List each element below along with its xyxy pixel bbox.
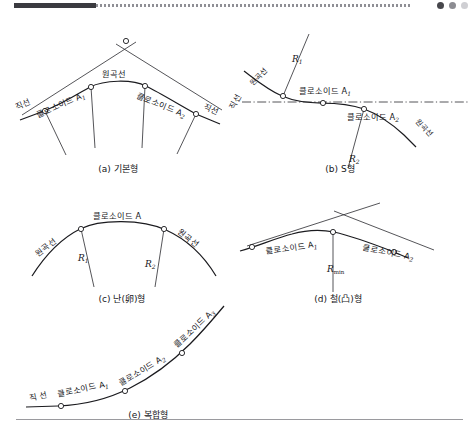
figure-d-label-clothoid-a1: 클로소이드 A1 [265, 239, 318, 257]
figure-b-label-straight-line-left: 직선 [227, 92, 243, 111]
figure-c-caption: (c) 난(卵)형 [99, 293, 146, 304]
page-bottom-rule [16, 419, 463, 420]
figure-b-node-cs [280, 93, 285, 98]
scan-bar-dot-dark [437, 2, 444, 9]
figure-e-node-cc1 [122, 388, 127, 393]
scan-bar-dot-light [461, 2, 468, 9]
figure-c-alignment-curve [32, 222, 216, 276]
figure-a-label-straight-line-left: 직선 [14, 96, 33, 112]
figure-a-radius-line-2 [91, 87, 95, 148]
figure-b-label-circular-curve-upper: 원곡선 [248, 66, 269, 87]
figure-e-compound-type: 직 선 클로소이드 A1 클로소이드 A2 클로소이드 A3 (e) 복합형 [26, 306, 224, 420]
figure-a-radius-line-1 [45, 111, 66, 155]
figure-c-oval-type: 원곡선 클로소이드 A 원곡선 R1 R2 (c) 난(卵)형 [32, 211, 216, 304]
figure-b-label-clothoid-a1: 클로소이드 A1 [299, 86, 351, 97]
figure-a-label-circular-curve: 원곡선 [102, 69, 126, 79]
clothoid-types-figure: 직선 클로소이드 A1 원곡선 클로소이드 A2 직선 (a) 기본형 직선 [0, 14, 475, 433]
scan-bar-dotted-segment [96, 4, 411, 7]
scan-bar-dot-medium [449, 2, 456, 9]
figure-d-tangent-right [334, 211, 434, 250]
figure-e-label-clothoid-a1: 클로소이드 A1 [56, 378, 109, 400]
figure-b-label-clothoid-a2: 클로소이드 A2 [347, 112, 399, 123]
figure-a-node-sc-left [88, 84, 93, 89]
figure-d-caption: (d) 철(凸)형 [314, 294, 362, 304]
figure-a-tangent-right [116, 44, 222, 110]
figure-a-node-cs-right [142, 83, 147, 88]
figure-b-label-circular-curve-lower: 원곡선 [414, 117, 435, 138]
figure-a-basic-type: 직선 클로소이드 A1 원곡선 클로소이드 A2 직선 (a) 기본형 [14, 38, 222, 174]
figure-b-alignment-curve [244, 71, 416, 147]
figure-d-label-radius-rmin: Rmin [326, 264, 345, 275]
figure-e-node-ts [58, 403, 63, 408]
figure-e-node-cc2 [179, 350, 184, 355]
figure-c-label-clothoid-a: 클로소이드 A [93, 211, 142, 221]
figure-c-node-sc [161, 226, 166, 231]
figure-c-label-radius-r2: R2 [144, 259, 156, 270]
figure-a-label-clothoid-a2: 클로소이드 A2 [135, 91, 188, 121]
figure-a-node-st [193, 111, 198, 116]
figure-b-node-inflect [320, 100, 325, 105]
scan-bar-solid-segment [14, 3, 96, 8]
figure-d-node-apex [330, 229, 335, 234]
figure-b-s-type: 직선 원곡선 R1 클로소이드 A1 클로소이드 A2 R2 원곡선 (b) S… [227, 34, 470, 174]
scan-artifact-top-bar [0, 0, 475, 14]
figure-c-node-cs [78, 226, 83, 231]
figure-d-convex-type: 클로소이드 A1 클로소이드 A2 Rmin (d) 철(凸)형 [240, 203, 434, 304]
figure-a-caption: (a) 기본형 [98, 164, 137, 174]
figure-d-label-clothoid-a2: 클로소이드 A2 [361, 242, 414, 263]
figure-a-alignment-curve [20, 81, 220, 124]
figure-b-caption: (b) S형 [325, 164, 354, 174]
figure-d-node-left-end [249, 244, 254, 249]
figure-a-label-clothoid-a1: 클로소이드 A1 [35, 90, 87, 121]
figure-a-radius-line-4 [177, 114, 196, 154]
figure-b-label-radius-r1: R1 [291, 54, 303, 65]
figure-e-label-clothoid-a3: 클로소이드 A3 [172, 307, 218, 351]
figure-a-node-apex [123, 38, 128, 43]
figure-e-label-straight-line: 직 선 [28, 389, 48, 403]
figure-b-node-sc [361, 106, 366, 111]
figure-a-label-straight-line-right: 직선 [202, 102, 221, 117]
figure-c-radius-line-2 [155, 229, 164, 287]
